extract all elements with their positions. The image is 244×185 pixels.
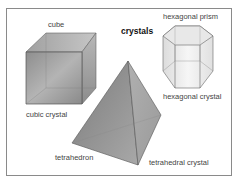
hexagonal-prism-shape (163, 26, 213, 88)
label-tetrahedron: tetrahedron (55, 154, 93, 162)
label-tetrahedral-crystal: tetrahedral crystal (149, 159, 209, 167)
label-cubic-crystal: cubic crystal (26, 111, 67, 119)
diagram-title: crystals (121, 27, 153, 36)
label-hexagonal-prism: hexagonal prism (163, 13, 218, 21)
label-cube: cube (48, 21, 64, 29)
cube-shape (26, 33, 96, 104)
label-hexagonal-crystal: hexagonal crystal (163, 93, 221, 101)
